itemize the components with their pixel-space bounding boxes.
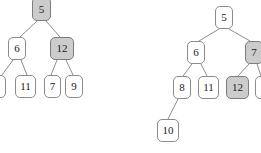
edge-6-11 [201,64,207,76]
tree-node-right-5[interactable]: 5 [215,6,233,29]
tree-node-label: 7 [251,47,257,58]
tree-node-label: 8 [179,82,185,93]
tree-node-right-12[interactable]: 12 [226,76,249,99]
edge-7-9 [257,64,261,76]
tree-node-right-clipped[interactable] [255,76,261,99]
edge-8-10 [168,99,178,119]
tree-node-right-11[interactable]: 11 [198,76,219,99]
right-binary-tree: 5 6 7 8 11 12 10 [0,0,261,153]
edge-6-8 [183,64,192,76]
edge-5-6 [199,29,219,41]
tree-node-right-8[interactable]: 8 [173,76,191,99]
tree-node-right-7[interactable]: 7 [245,41,261,64]
tree-node-right-6[interactable]: 6 [187,41,205,64]
tree-node-right-10[interactable]: 10 [157,119,179,142]
tree-node-label: 10 [163,125,174,136]
edge-5-7 [229,29,250,41]
tree-node-label: 6 [193,47,199,58]
binary-tree-figure: 5 6 12 11 7 9 [0,0,261,153]
tree-node-label: 12 [232,82,243,93]
tree-node-label: 11 [203,82,214,93]
edge-7-12 [238,64,249,76]
tree-node-label: 5 [221,12,227,23]
